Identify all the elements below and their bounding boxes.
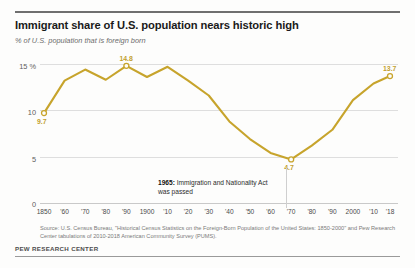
x-tick-1900: 1900 [136, 208, 158, 215]
x-tick-1890: '90 [115, 208, 137, 215]
x-tick-1980: '80 [301, 208, 323, 215]
annotation-divider [286, 168, 287, 208]
x-tick-2018: '18 [379, 208, 401, 215]
annotation-1965: 1965: Immigration and Nationality Act wa… [158, 178, 278, 196]
x-tick-1860: '60 [54, 208, 76, 215]
x-tick-1990: '90 [321, 208, 343, 215]
x-tick-1960: '60 [260, 208, 282, 215]
data-label-1890: 14.8 [119, 55, 132, 62]
annotation-year: 1965: [158, 179, 175, 186]
page-title: Immigrant share of U.S. population nears… [15, 19, 405, 32]
source-note: Source: U.S. Census Bureau, "Historical … [40, 224, 405, 240]
y-tick-10: 10 [6, 108, 36, 117]
x-tick-2000: 2000 [342, 208, 364, 215]
data-label-1850: 9.7 [37, 118, 47, 125]
bottom-divider [15, 256, 400, 257]
x-tick-1930: '30 [198, 208, 220, 215]
data-label-2018: 13.7 [383, 65, 396, 72]
x-tick-1880: '80 [95, 208, 117, 215]
chart-page: Immigrant share of U.S. population nears… [0, 0, 415, 268]
footer-brand: PEW RESEARCH CENTER [15, 245, 98, 252]
y-tick-0: 0 [6, 200, 36, 209]
y-tick-15: 15 % [6, 62, 36, 71]
y-tick-5: 5 [6, 155, 36, 164]
x-tick-1870: '70 [74, 208, 96, 215]
top-divider [15, 11, 400, 13]
x-tick-1910: '10 [157, 208, 179, 215]
x-tick-1970: '70 [280, 208, 302, 215]
x-tick-1940: '40 [218, 208, 240, 215]
page-subtitle: % of U.S. population that is foreign bor… [15, 36, 405, 45]
x-tick-1850: 1850 [33, 208, 55, 215]
annotation-text: Immigration and Nationality Act was pass… [158, 179, 268, 195]
x-tick-1920: '20 [177, 208, 199, 215]
x-tick-1950: '50 [239, 208, 261, 215]
